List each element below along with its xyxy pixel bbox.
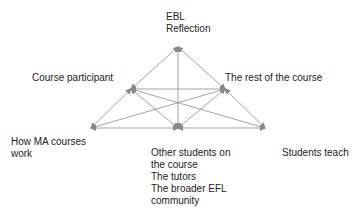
node-bottom-left-label: How MA courses work [11, 136, 86, 160]
label-line: the course [151, 159, 231, 171]
label-line: The broader EFL [151, 183, 231, 195]
edge-top-right-mid [178, 47, 225, 89]
node-right-mid-label: The rest of the course [225, 72, 322, 84]
label-line: Reflection [166, 23, 210, 35]
edge-top-left-mid [131, 47, 178, 89]
label-line: Course participant [32, 72, 113, 84]
label-line: work [11, 148, 86, 160]
edge-right-mid-bottom-center [178, 89, 225, 128]
node-left-mid-label: Course participant [32, 72, 113, 84]
label-line: EBL [166, 11, 210, 23]
label-line: Students teach [282, 147, 349, 159]
label-line: Other students on [151, 147, 231, 159]
label-line: community [151, 195, 231, 207]
node-bottom-center-label: Other students on the course The tutors … [151, 147, 231, 207]
label-line: The tutors [151, 171, 231, 183]
node-top-label: EBL Reflection [166, 11, 210, 35]
node-bottom-right-label: Students teach [282, 147, 349, 159]
edge-left-mid-bottom-center [131, 89, 178, 128]
label-line: The rest of the course [225, 72, 322, 84]
label-line: How MA courses [11, 136, 86, 148]
